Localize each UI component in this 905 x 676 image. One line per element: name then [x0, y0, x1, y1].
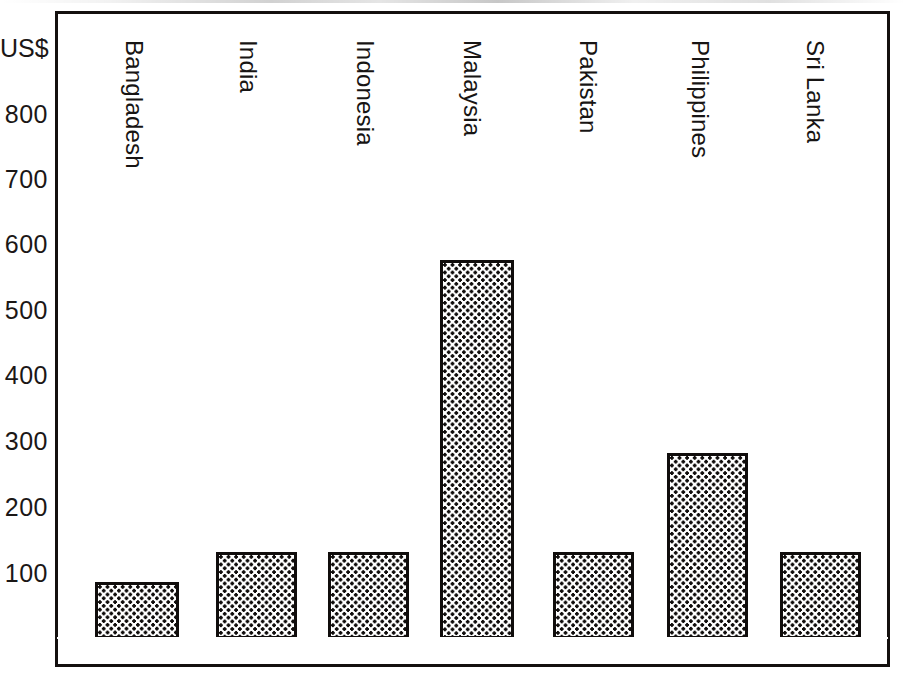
bar-philippines[interactable] [667, 453, 748, 639]
y-tick-800: 800 [0, 102, 48, 127]
bar-malaysia[interactable] [440, 260, 514, 639]
bar-india[interactable] [216, 552, 297, 639]
bar-bangladesh[interactable] [95, 582, 179, 639]
y-tick-600: 600 [0, 232, 48, 257]
y-tick-500: 500 [0, 298, 48, 323]
bar-indonesia[interactable] [328, 552, 409, 639]
bar-pakistan[interactable] [553, 552, 634, 639]
chart-page: US$ 800 700 600 500 400 300 200 100 Bang… [0, 0, 905, 676]
y-tick-400: 400 [0, 363, 48, 388]
y-axis-labels: US$ 800 700 600 500 400 300 200 100 [0, 0, 48, 676]
scan-artifact [0, 0, 905, 3]
bar-sri-lanka[interactable] [780, 552, 861, 639]
y-tick-100: 100 [0, 561, 48, 586]
y-tick-700: 700 [0, 167, 48, 192]
y-tick-300: 300 [0, 429, 48, 454]
y-axis-unit-label: US$ [0, 36, 48, 61]
y-tick-200: 200 [0, 495, 48, 520]
